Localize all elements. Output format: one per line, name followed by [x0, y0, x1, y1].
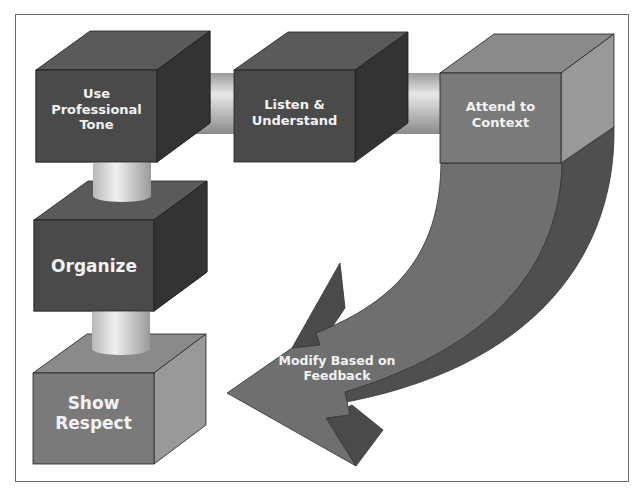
curved-arrow-modify-feedback	[227, 127, 614, 466]
label-use-professional-tone: Use Professional Tone	[36, 86, 157, 133]
label-line: Understand	[234, 113, 355, 129]
label-line: Context	[440, 115, 561, 131]
label-line: Listen &	[234, 97, 355, 113]
label-line: Respect	[33, 413, 154, 433]
label-line: Organize	[34, 256, 154, 276]
label-show-respect: Show Respect	[33, 393, 154, 434]
label-attend-to-context: Attend to Context	[440, 99, 561, 130]
label-line: Professional	[36, 102, 157, 118]
label-modify-based-on-feedback: Modify Based on Feedback	[262, 353, 412, 383]
label-line: Show	[33, 393, 154, 413]
label-line: Modify Based on	[262, 353, 412, 368]
label-organize: Organize	[34, 256, 154, 276]
label-listen-understand: Listen & Understand	[234, 97, 355, 128]
label-line: Tone	[36, 117, 157, 133]
label-line: Attend to	[440, 99, 561, 115]
label-line: Use	[36, 86, 157, 102]
label-line: Feedback	[262, 368, 412, 383]
